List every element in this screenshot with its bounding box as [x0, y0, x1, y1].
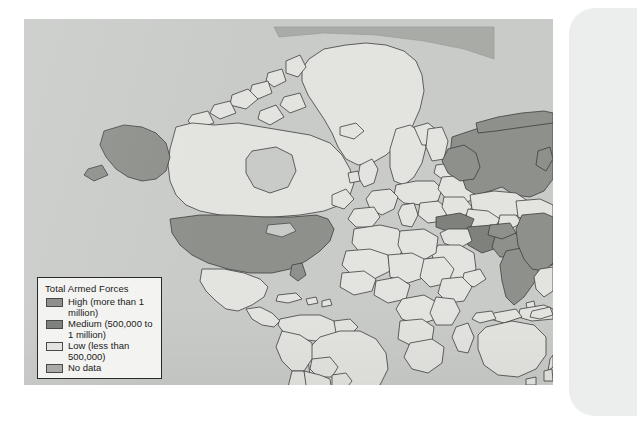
legend-label-high: High (more than 1 million)	[68, 297, 155, 318]
world-map-figure: .ld{fill:#e3e4e0;stroke:#3d3f3d;stroke-w…	[24, 19, 553, 385]
country-new-zealand	[548, 355, 553, 371]
screenshot-stage: Human Development Report (2008), pp. 318…	[0, 0, 637, 424]
country-spain-portugal	[348, 207, 380, 227]
legend-label-medium: Medium (500,000 to 1 million)	[68, 319, 155, 340]
country-usa	[170, 215, 334, 273]
nodata-swatch	[46, 364, 63, 373]
country-mexico	[200, 269, 268, 311]
country-italy	[398, 203, 418, 227]
high-swatch	[46, 298, 63, 307]
country-australia	[478, 321, 546, 377]
country-eastafrica	[430, 297, 460, 325]
legend-label-nodata: No data	[68, 363, 101, 374]
legend-label-low: Low (less than 500,000)	[68, 341, 155, 362]
region-central-america	[246, 307, 280, 327]
legend-title: Total Armed Forces	[45, 283, 155, 294]
legend-row-low: Low (less than 500,000)	[45, 341, 155, 362]
country-tasmania	[526, 377, 536, 385]
legend-row-medium: Medium (500,000 to 1 million)	[45, 319, 155, 340]
country-usa-alaska	[100, 125, 170, 181]
legend-row-nodata: No data	[45, 363, 155, 374]
legend-row-high: High (more than 1 million)	[45, 297, 155, 318]
map-legend: Total Armed Forces High (more than 1 mil…	[37, 277, 162, 379]
country-southern-africa	[404, 339, 444, 373]
low-swatch	[46, 342, 63, 351]
medium-swatch	[46, 320, 63, 329]
facing-page-sheet	[569, 8, 637, 416]
country-madagascar	[452, 323, 474, 353]
